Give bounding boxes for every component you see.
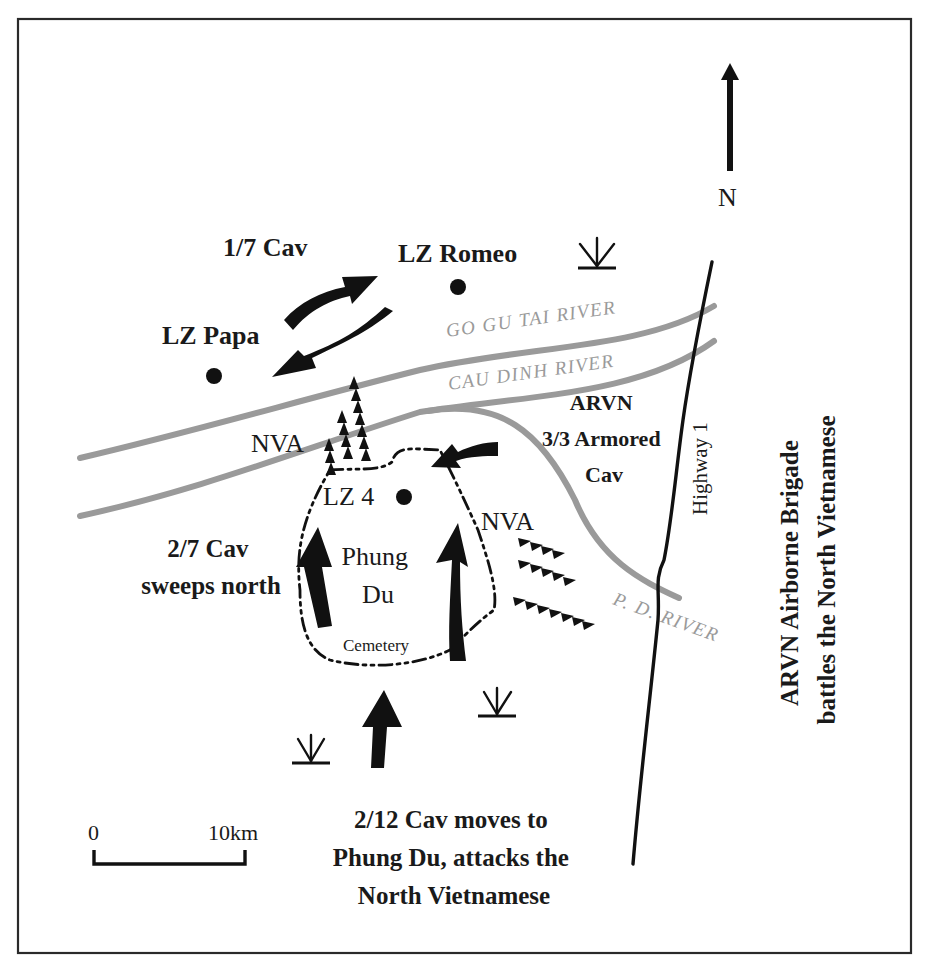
- unit-2-7-cav-label: 2/7 Cav sweeps north: [141, 535, 281, 599]
- unit-1-7-cav-label: 1/7 Cav: [223, 233, 308, 262]
- unit-2-12-cav-label: 2/12 Cav moves to Phung Du, attacks the …: [333, 806, 575, 909]
- battle-map: N GO GU TAI RIVER CAU DINH RIVER P. D. R…: [0, 0, 928, 974]
- lz-4-label: LZ 4: [323, 482, 374, 511]
- marsh-icon: [478, 688, 516, 716]
- north-label: N: [718, 183, 737, 212]
- arvn-airborne-label: ARVN Airborne Brigade battles the North …: [776, 416, 840, 725]
- go-gu-tai-river-label: GO GU TAI RIVER: [445, 296, 618, 341]
- scale-start-label: 0: [88, 820, 99, 845]
- p-d-river-label: P. D. RIVER: [610, 588, 723, 646]
- lz-4-marker: [396, 489, 412, 505]
- nva-north-label: NVA: [251, 429, 304, 458]
- lz-romeo-label: LZ Romeo: [398, 239, 517, 268]
- phung-du-label: Phung Du: [342, 542, 415, 609]
- marsh-icon: [578, 238, 616, 268]
- nva-east-label: NVA: [481, 507, 534, 536]
- lz-romeo-marker: [450, 279, 466, 295]
- scale-end-label: 10km: [208, 820, 258, 845]
- arrow-2-12-cav-north: [362, 690, 402, 768]
- lz-papa-marker: [206, 368, 222, 384]
- arrow-phung-du-east-north: [436, 523, 468, 661]
- lz-papa-label: LZ Papa: [162, 321, 260, 350]
- arrow-1-7-cav-east: [284, 276, 378, 330]
- nva-east-arrows: [513, 538, 595, 630]
- highway-1-label: Highway 1: [688, 422, 712, 515]
- scale-bar: [94, 850, 245, 864]
- marsh-icon: [292, 735, 330, 763]
- cemetery-label: Cemetery: [343, 636, 410, 655]
- north-arrow-icon: [721, 63, 739, 171]
